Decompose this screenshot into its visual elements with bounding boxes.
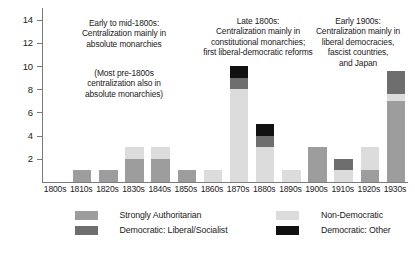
bar-1810s — [73, 170, 91, 182]
bar-1890s — [282, 170, 300, 182]
y-tick-label-10: 10 — [0, 62, 33, 72]
y-tick-label-2: 2 — [0, 154, 33, 164]
legend-label: Non-Democratic — [321, 210, 405, 220]
x-label-1890s: 1890s — [277, 185, 303, 194]
bar-segment-1930s-auth — [387, 101, 405, 182]
bar-segment-1830s-nondem — [125, 147, 143, 159]
y-tick-12 — [37, 43, 42, 44]
bar-1820s — [99, 170, 117, 182]
y-tick-label-12: 12 — [0, 38, 33, 48]
x-label-1820s: 1820s — [94, 185, 120, 194]
x-label-1810s: 1810s — [68, 185, 94, 194]
stacked-bar-chart: 2468101214 Early to mid-1800s:Centraliza… — [0, 0, 415, 253]
bar-1910s — [334, 159, 352, 182]
y-tick-label-6: 6 — [0, 108, 33, 118]
y-tick-2 — [37, 159, 42, 160]
x-label-1860s: 1860s — [199, 185, 225, 194]
bar-segment-1830s-auth — [125, 159, 143, 182]
bar-segment-1870s-demother — [230, 66, 248, 78]
chart-legend: Strongly AuthoritarianNon-DemocraticDemo… — [75, 210, 405, 235]
caption-sliver — [52, 246, 405, 253]
bar-segment-1910s-libsoc — [334, 159, 352, 171]
bar-1920s — [361, 147, 379, 182]
bar-segment-1870s-nondem — [230, 89, 248, 182]
legend-label: Democratic: Other — [321, 225, 405, 235]
bar-segment-1820s-auth — [99, 170, 117, 182]
y-tick-label-14: 14 — [0, 15, 33, 25]
legend-swatch-demother — [276, 226, 299, 235]
bars-layer — [43, 8, 408, 182]
bar-1870s — [230, 66, 248, 182]
legend-swatch-nondem — [276, 211, 299, 220]
bar-1860s — [204, 170, 222, 182]
plot-area: 1800s1810s1820s1830s1840s1850s1860s1870s… — [42, 8, 408, 182]
bar-segment-1850s-auth — [178, 170, 196, 182]
y-tick-14 — [37, 20, 42, 21]
x-label-1910s: 1910s — [330, 185, 356, 194]
bar-1830s — [125, 147, 143, 182]
bar-segment-1810s-auth — [73, 170, 91, 182]
bar-1850s — [178, 170, 196, 182]
y-tick-label-8: 8 — [0, 85, 33, 95]
bar-segment-1930s-libsoc — [387, 71, 405, 94]
x-label-1800s: 1800s — [42, 185, 68, 194]
x-label-1830s: 1830s — [120, 185, 146, 194]
y-tick-label-4: 4 — [0, 131, 33, 141]
x-label-1870s: 1870s — [225, 185, 251, 194]
legend-swatch-auth — [75, 211, 98, 220]
x-label-1900s: 1900s — [303, 185, 329, 194]
bar-segment-1890s-nondem — [282, 170, 300, 182]
x-axis-line — [42, 182, 408, 183]
bar-segment-1920s-nondem — [361, 147, 379, 170]
x-label-1850s: 1850s — [173, 185, 199, 194]
bar-segment-1840s-nondem — [151, 147, 169, 159]
x-label-1840s: 1840s — [147, 185, 173, 194]
legend-swatch-libsoc — [75, 226, 98, 235]
bar-segment-1910s-nondem — [334, 170, 352, 182]
bar-1930s — [387, 71, 405, 182]
bar-segment-1870s-libsoc — [230, 78, 248, 90]
x-label-1920s: 1920s — [356, 185, 382, 194]
bar-segment-1930s-nondem — [387, 94, 405, 101]
bar-segment-1920s-auth — [361, 170, 379, 182]
x-label-1880s: 1880s — [251, 185, 277, 194]
y-tick-6 — [37, 112, 42, 113]
x-label-1930s: 1930s — [382, 185, 408, 194]
bar-1880s — [256, 124, 274, 182]
bar-segment-1840s-auth — [151, 159, 169, 182]
legend-label: Democratic: Liberal/Socialist — [119, 225, 269, 235]
y-tick-10 — [37, 66, 42, 67]
bar-segment-1880s-libsoc — [256, 136, 274, 148]
legend-label: Strongly Authoritarian — [119, 210, 269, 220]
bar-segment-1880s-demother — [256, 124, 274, 136]
bar-1900s — [308, 147, 326, 182]
y-tick-4 — [37, 136, 42, 137]
y-tick-8 — [37, 89, 42, 90]
bar-segment-1880s-nondem — [256, 147, 274, 182]
bar-segment-1860s-nondem — [204, 170, 222, 182]
bar-1840s — [151, 147, 169, 182]
bar-segment-1900s-auth — [308, 147, 326, 182]
